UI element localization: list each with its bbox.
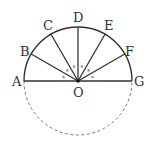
ray-OE <box>78 34 105 81</box>
label-E: E <box>104 18 114 33</box>
label-G: G <box>134 74 144 89</box>
label-O: O <box>73 85 84 100</box>
ray-OF <box>78 54 125 81</box>
label-F: F <box>125 44 134 59</box>
center-point-O <box>76 79 80 83</box>
label-B: B <box>20 44 30 59</box>
semicircle-diagram: A B C D E F G O <box>0 0 153 145</box>
label-A: A <box>11 74 22 89</box>
ray-OC <box>51 34 78 81</box>
ray-OB <box>31 54 78 81</box>
label-C: C <box>43 18 53 33</box>
label-D: D <box>73 10 83 25</box>
